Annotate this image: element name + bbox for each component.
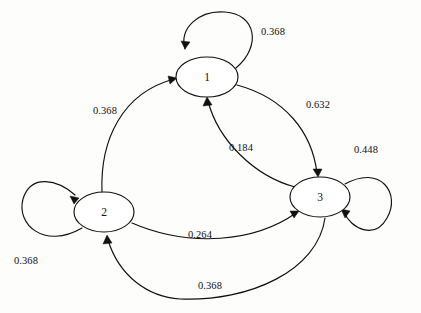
edge-3-to-3-label: 0.448 bbox=[354, 144, 378, 155]
edge-1-to-3-label: 0.632 bbox=[306, 99, 330, 110]
edge-1-to-1-label: 0.368 bbox=[261, 26, 285, 37]
edge-2-to-3-label: 0.264 bbox=[188, 229, 213, 240]
edge-2-to-1-path bbox=[102, 79, 174, 192]
edge-2-to-1: 0.368 bbox=[93, 76, 177, 192]
node-1[interactable]: 1 bbox=[176, 57, 238, 97]
edge-1-to-3: 0.632 bbox=[237, 85, 330, 177]
edge-3-to-2-label: 0.368 bbox=[198, 280, 222, 291]
edge-3-to-1-label: 0.184 bbox=[229, 142, 254, 153]
edge-1-to-1-arrowhead bbox=[181, 41, 190, 49]
edge-2-to-1-label: 0.368 bbox=[93, 105, 117, 116]
node-3-label: 3 bbox=[317, 191, 323, 203]
edge-2-to-2: 0.368 bbox=[14, 182, 82, 267]
edge-1-to-3-arrowhead bbox=[313, 169, 322, 177]
edge-3-to-2: 0.368 bbox=[103, 218, 325, 299]
edge-3-to-1: 0.184 bbox=[203, 97, 295, 187]
edge-3-to-3-path bbox=[344, 177, 391, 230]
edge-1-to-3-path bbox=[237, 85, 317, 173]
diagram-canvas: 0.368 0.368 0.632 0.184 0.448 bbox=[0, 0, 421, 313]
state-transition-diagram: 0.368 0.368 0.632 0.184 0.448 bbox=[0, 0, 421, 313]
node-3[interactable]: 3 bbox=[290, 177, 350, 217]
edge-2-to-2-path bbox=[22, 182, 82, 237]
edge-2-to-2-label: 0.368 bbox=[14, 255, 38, 266]
edge-2-to-3-path bbox=[132, 213, 296, 239]
node-2-label: 2 bbox=[101, 206, 107, 218]
edge-3-to-2-arrowhead bbox=[103, 235, 112, 244]
edge-3-to-1-arrowhead bbox=[203, 97, 212, 106]
edge-3-to-3: 0.448 bbox=[341, 144, 391, 230]
edge-2-to-3: 0.264 bbox=[132, 211, 299, 240]
node-1-label: 1 bbox=[204, 71, 210, 83]
edge-2-to-3-arrowhead bbox=[290, 211, 299, 218]
node-2[interactable]: 2 bbox=[74, 192, 134, 232]
